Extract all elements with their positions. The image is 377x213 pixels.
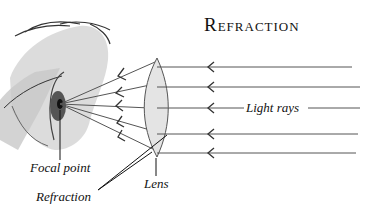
diagram-artwork	[0, 0, 377, 213]
light-rays-label: Light rays	[244, 100, 301, 116]
refraction-label: Refraction	[34, 189, 93, 205]
diagram-title: Refraction	[204, 14, 300, 36]
incoming-ray-arrows	[208, 62, 214, 158]
lens-label: Lens	[142, 176, 171, 192]
focal-point-label: Focal point	[28, 160, 92, 176]
face-illustration	[0, 22, 110, 150]
refraction-diagram: Refraction Light rays Focal point Lens R…	[0, 0, 377, 213]
